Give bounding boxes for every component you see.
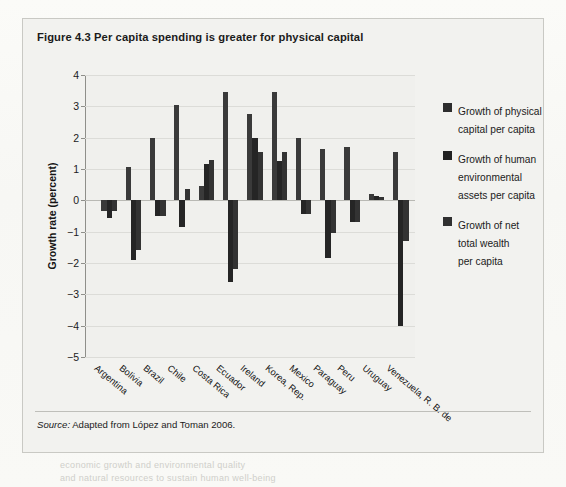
source-note: Source: Adapted from López and Toman 200… [37,419,235,430]
y-tick-mark [81,138,85,139]
gridline [85,357,415,358]
x-axis-label: Venezuela, R. B. de [385,363,454,423]
bar [282,152,287,201]
y-tick-mark [81,357,85,358]
figure-page: Venezuela, R. B. deUruguayto diagnose po… [0,0,566,487]
bar [136,200,141,250]
legend-item: Growth of physical capital per capita [443,101,553,137]
y-tick-label: 0 [73,194,79,206]
bar [185,189,190,200]
gridline [85,326,415,327]
figure-title: Figure 4.3 Per capita spending is greate… [37,31,363,43]
y-tick-label: 1 [73,163,79,175]
bar [112,200,117,211]
y-tick-label: −5 [67,351,79,363]
y-tick-label: −1 [67,226,79,238]
gridline [85,263,415,264]
bar [379,197,384,200]
y-tick-label: −4 [67,320,79,332]
source-divider [35,411,531,412]
bleed-through-line: and natural resources to sustain human w… [60,473,276,483]
bar [209,160,214,201]
y-tick-mark [81,263,85,264]
legend-item: Growth of net total wealth per capita [443,215,553,269]
source-label: Source: [37,419,70,430]
bar [233,200,238,269]
chart-legend: Growth of physical capital per capitaGro… [443,101,553,281]
bar [403,200,408,241]
bar [320,149,325,201]
bar [179,200,184,227]
y-tick-mark [81,106,85,107]
y-tick-mark [81,75,85,76]
y-tick-label: 4 [73,69,79,81]
bar [160,200,165,216]
y-axis-line [85,75,86,357]
x-axis-label: Chile [166,363,189,384]
y-tick-label: 2 [73,132,79,144]
y-axis-title-text: Growth rate (percent) [46,163,58,270]
bar [174,105,179,201]
legend-item-label: Growth of physical capital per capita [458,106,542,135]
bar [126,167,131,200]
y-tick-label: 3 [73,100,79,112]
bar [393,152,398,201]
legend-swatch-net-total-wealth-icon [443,217,452,226]
y-axis-title: Growth rate (percent) [45,75,59,357]
bar [296,138,301,201]
gridline [85,106,415,107]
gridline [85,75,415,76]
y-tick-label: −2 [67,257,79,269]
bar [223,92,228,200]
bar [150,138,155,201]
legend-item: Growth of human environmental assets per… [443,149,553,203]
bar [344,147,349,200]
bar [258,152,263,201]
bar [306,200,311,214]
gridline [85,294,415,295]
bleed-through-line: economic growth and environmental qualit… [60,460,245,470]
y-tick-label: −3 [67,288,79,300]
figure-container: Figure 4.3 Per capita spending is greate… [22,18,544,453]
y-tick-mark [81,169,85,170]
bar [331,200,336,233]
y-tick-mark [81,326,85,327]
y-tick-mark [81,200,85,201]
x-axis-label: Brazil [142,363,166,386]
source-text: Adapted from López and Toman 2006. [70,419,235,430]
bar [355,200,360,222]
legend-swatch-physical-capital-icon [443,103,452,112]
plot-area: 43210−1−2−3−4−5 [85,75,415,357]
y-tick-mark [81,294,85,295]
y-tick-mark [81,232,85,233]
legend-swatch-human-environmental-icon [443,151,452,160]
legend-item-label: Growth of human environmental assets per… [458,154,536,201]
legend-item-label: Growth of net total wealth per capita [458,220,519,267]
